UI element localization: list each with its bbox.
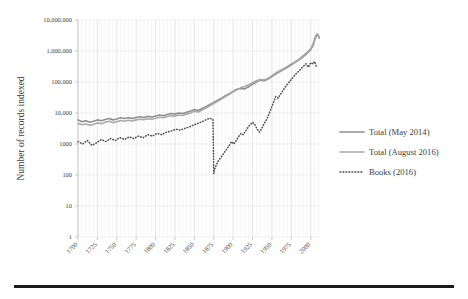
- bottom-horizontal-rule: [14, 285, 454, 288]
- x-tick-label: 1850: [181, 241, 195, 255]
- x-tick-label: 1750: [104, 241, 118, 255]
- x-tick-label: 1800: [142, 241, 156, 255]
- x-tick-label: 1950: [259, 241, 273, 255]
- y-tick-label: 1000: [59, 140, 72, 147]
- y-tick-label: 10,000: [54, 109, 72, 116]
- x-tick-label: 1700: [65, 241, 79, 255]
- log-line-chart[interactable]: 110100100010,000100,0001,000,00010,000,0…: [0, 0, 468, 299]
- x-tick-label: 1975: [278, 241, 292, 255]
- x-tick-label: 1900: [220, 241, 234, 255]
- y-tick-label: 10,000,000: [43, 16, 72, 23]
- x-tick-label: 1925: [239, 241, 253, 255]
- series-line-2[interactable]: [78, 61, 316, 173]
- legend-label-0: Total (May 2014): [369, 127, 430, 137]
- legend-label-1: Total (August 2016): [369, 147, 439, 157]
- x-tick-label: 1875: [200, 241, 214, 255]
- y-tick-label: 1,000,000: [46, 47, 72, 54]
- chart-figure: 110100100010,000100,0001,000,00010,000,0…: [0, 0, 468, 299]
- x-tick-label: 1725: [84, 241, 98, 255]
- y-tick-label: 100: [62, 171, 72, 178]
- y-tick-label: 1: [69, 233, 72, 240]
- series-line-1[interactable]: [78, 34, 319, 126]
- y-axis-title: Number of records indexed: [16, 76, 26, 180]
- x-tick-label: 2000: [297, 241, 311, 255]
- x-tick-label: 1825: [162, 241, 176, 255]
- series-line-0[interactable]: [78, 35, 319, 123]
- x-tick-label: 1775: [123, 241, 137, 255]
- y-tick-label: 100,000: [51, 78, 72, 85]
- legend-label-2: Books (2016): [369, 167, 416, 177]
- y-tick-label: 10: [66, 202, 72, 209]
